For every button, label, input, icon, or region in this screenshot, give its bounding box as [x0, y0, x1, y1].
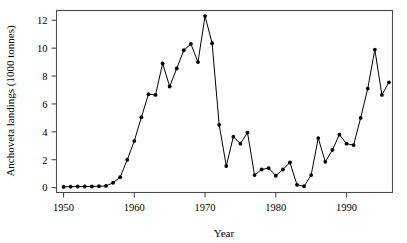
data-point — [309, 173, 313, 177]
data-point — [338, 133, 342, 137]
data-point — [267, 166, 271, 170]
anchoveta-landings-line-chart: 19501960197019801990 024681012 Year Anch… — [0, 0, 407, 243]
data-point — [139, 115, 143, 119]
data-point — [373, 48, 377, 52]
data-point — [224, 164, 228, 168]
y-tick-label: 4 — [42, 127, 48, 138]
data-point — [366, 87, 370, 91]
data-point — [90, 185, 94, 189]
data-point — [274, 174, 278, 178]
data-point — [231, 135, 235, 139]
x-tick-label: 1980 — [265, 202, 286, 213]
data-point — [288, 161, 292, 165]
y-tick-label: 6 — [42, 99, 47, 110]
data-point — [111, 181, 115, 185]
data-point — [189, 42, 193, 46]
x-tick-label: 1970 — [195, 202, 216, 213]
data-point — [302, 184, 306, 188]
data-point — [97, 184, 101, 188]
data-point — [104, 184, 108, 188]
y-axis-title: Anchoveta landings (1000 tonnes) — [4, 25, 17, 177]
y-tick-label: 12 — [37, 15, 48, 26]
data-point — [295, 183, 299, 187]
data-point — [217, 123, 221, 127]
data-point — [210, 41, 214, 45]
data-point — [281, 168, 285, 172]
data-point — [203, 14, 207, 18]
data-point — [132, 139, 136, 143]
data-point — [147, 92, 151, 96]
data-point — [253, 173, 257, 177]
data-point — [246, 131, 250, 135]
data-point — [62, 185, 66, 189]
y-tick-label: 0 — [42, 182, 47, 193]
data-point — [69, 185, 73, 189]
data-point — [83, 185, 87, 189]
data-point — [161, 62, 165, 66]
data-point — [359, 116, 363, 120]
data-point — [168, 85, 172, 89]
data-point — [175, 66, 179, 70]
data-point — [182, 48, 186, 52]
x-tick-label: 1950 — [53, 202, 74, 213]
data-point — [76, 185, 80, 189]
data-point — [323, 160, 327, 164]
y-tick-label: 10 — [37, 43, 48, 54]
data-point — [260, 168, 264, 172]
y-tick-label: 8 — [42, 71, 47, 82]
x-tick-label: 1990 — [336, 202, 357, 213]
data-point — [330, 148, 334, 152]
data-point — [316, 136, 320, 140]
y-tick-label: 2 — [42, 155, 47, 166]
data-point — [154, 93, 158, 97]
data-point — [352, 143, 356, 147]
x-axis-title: Year — [214, 227, 235, 239]
data-point — [345, 142, 349, 146]
data-point — [196, 60, 200, 64]
chart-container: 19501960197019801990 024681012 Year Anch… — [0, 0, 407, 243]
data-point — [118, 175, 122, 179]
x-tick-label: 1960 — [124, 202, 145, 213]
data-point — [125, 158, 129, 162]
data-point — [387, 80, 391, 84]
data-point — [380, 93, 384, 97]
data-point — [239, 142, 243, 146]
